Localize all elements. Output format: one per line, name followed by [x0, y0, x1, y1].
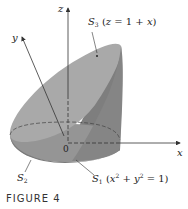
figure-caption: FIGURE 4 [6, 193, 61, 204]
s3-leader [92, 32, 97, 53]
s2-leader [25, 160, 31, 172]
z-axis-label: z [58, 4, 63, 14]
s3-label: S3 (z = 1 + x) [88, 17, 156, 28]
y-axis-label: y [12, 33, 18, 43]
x-axis-label: x [177, 148, 183, 158]
s1-label: S1 (x2 + y2 = 1) [92, 173, 168, 185]
origin-label: 0 [63, 145, 69, 154]
s2-label: S2 [17, 173, 28, 184]
figure-4: z y x 0 S3 (z = 1 + x) S1 (x2 + y2 = 1) … [0, 0, 188, 209]
